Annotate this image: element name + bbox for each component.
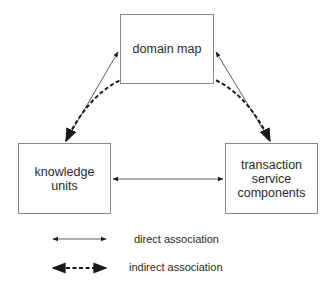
node-domain-map: domain map (120, 14, 214, 84)
legend-indirect-label: indirect association (129, 261, 223, 273)
node-transaction-service-components: transaction service components (225, 143, 318, 214)
node-label: domain map (133, 42, 202, 56)
node-label: transaction service components (237, 158, 305, 200)
legend-direct-label: direct association (134, 233, 219, 245)
node-knowledge-units: knowledge units (18, 143, 111, 214)
node-label: knowledge units (35, 165, 95, 193)
